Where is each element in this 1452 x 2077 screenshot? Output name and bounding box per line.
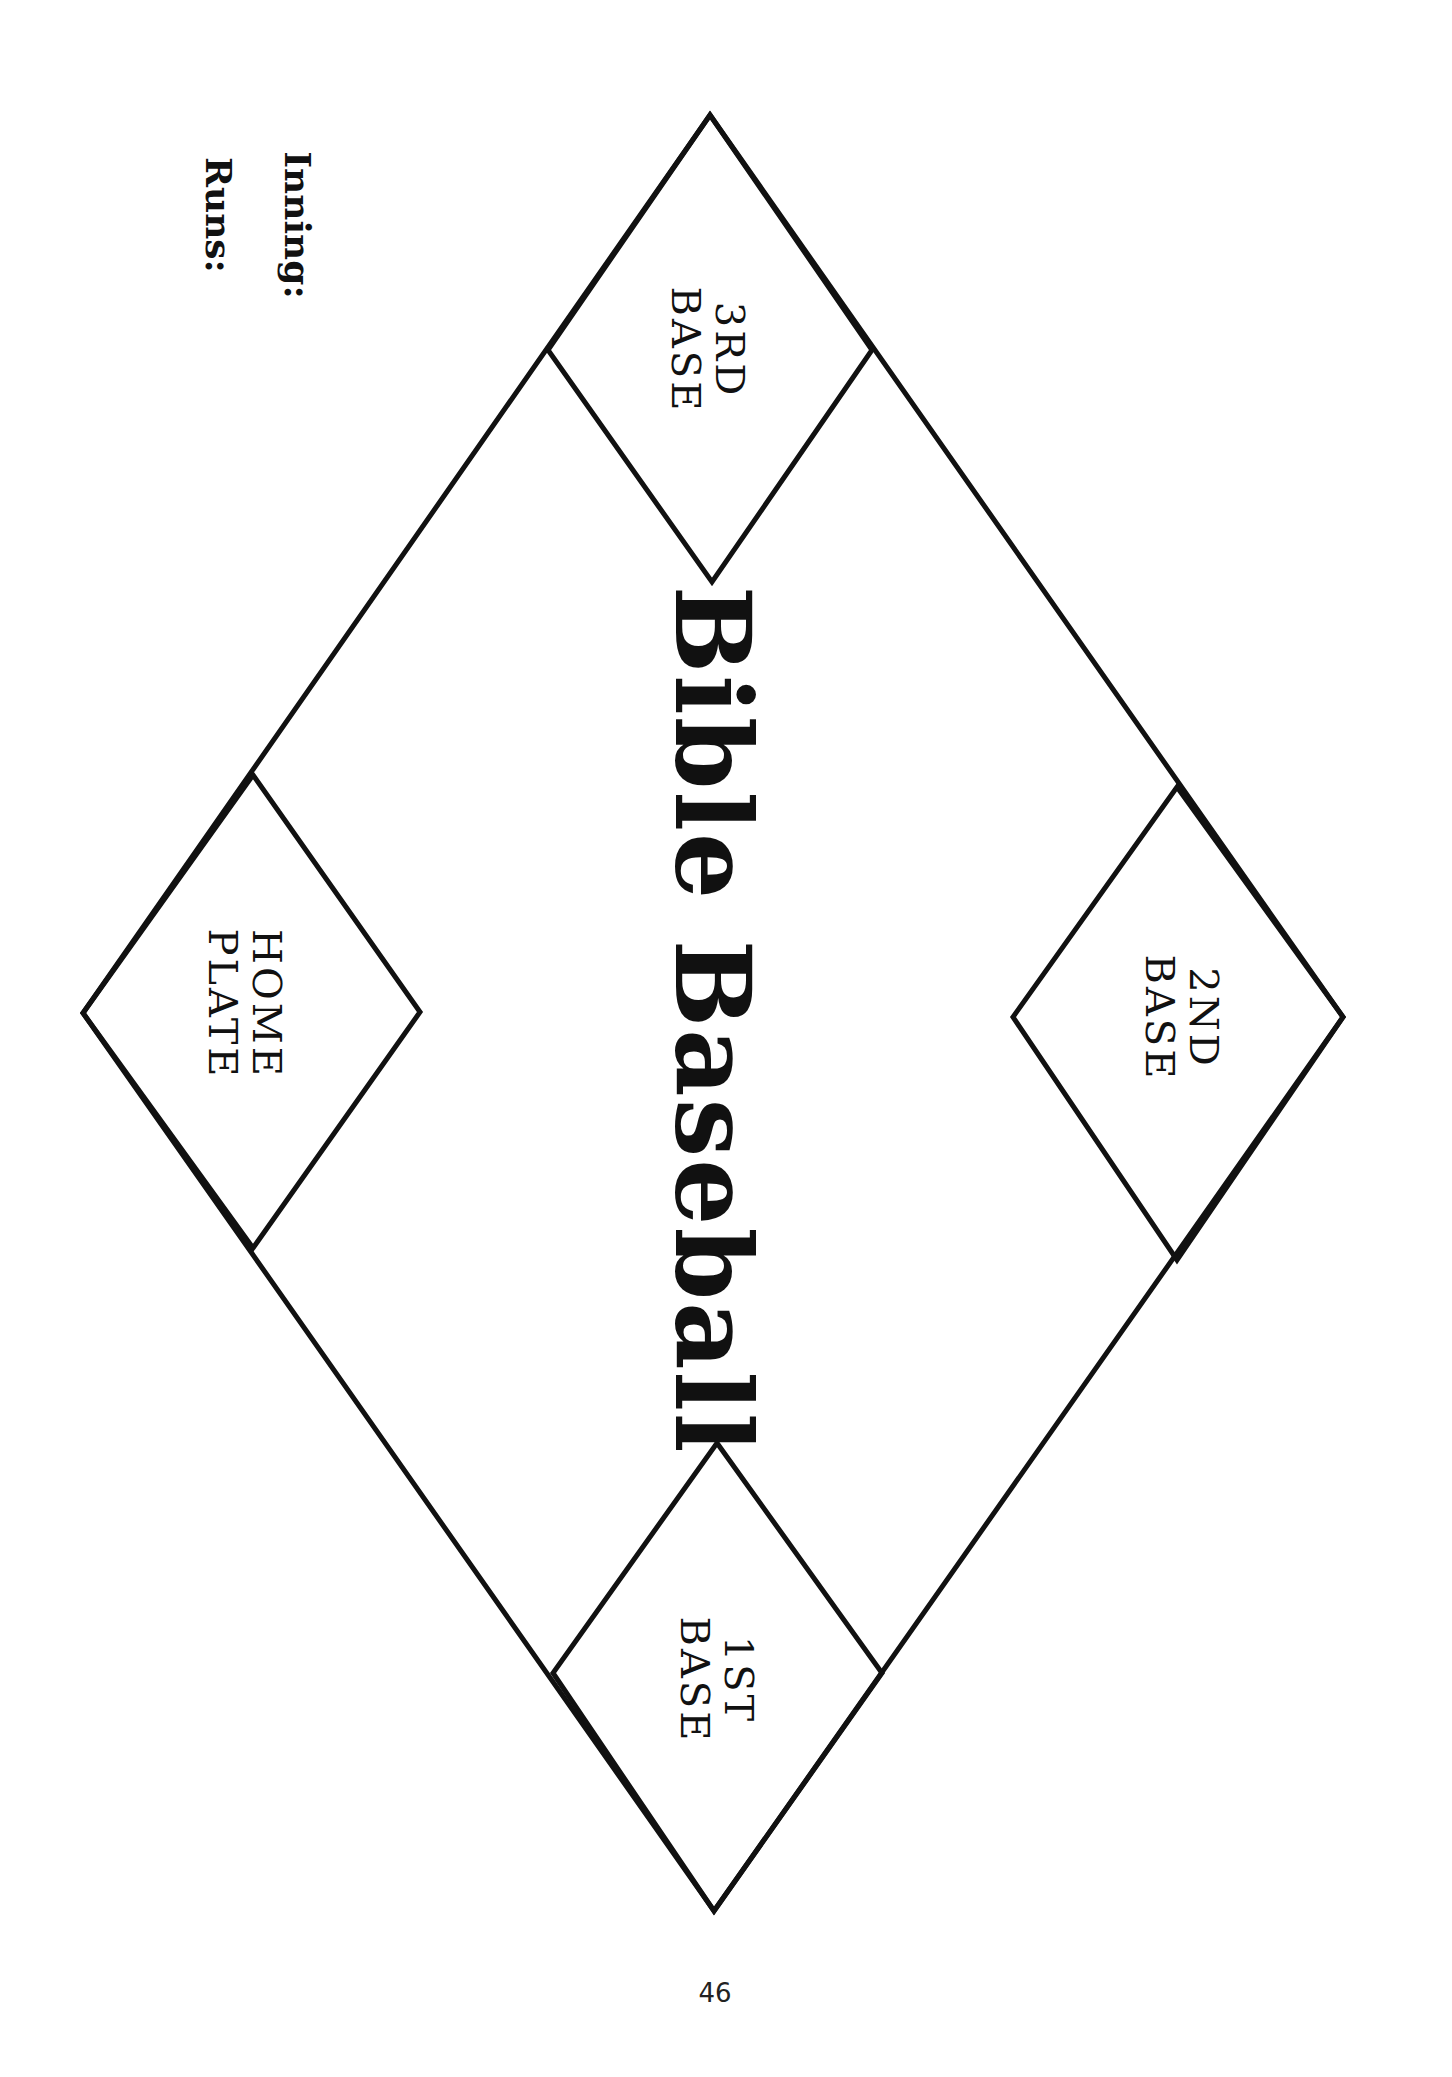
first-base-label-line2: BASE [673, 1617, 717, 1744]
second-base-label-line1: 2ND [1182, 955, 1226, 1082]
first-base-label: 1ST BASE [673, 1617, 761, 1744]
inning-label: Inning: [277, 151, 319, 299]
first-base-label-line1: 1ST [717, 1617, 761, 1744]
page-title: Bible Baseball [651, 585, 774, 1454]
third-base-label-line1: 3RD [708, 287, 752, 414]
runs-label: Runs: [198, 157, 240, 273]
second-base-label-line2: BASE [1138, 955, 1182, 1082]
second-base-label: 2ND BASE [1138, 955, 1226, 1082]
third-base-label-line2: BASE [664, 287, 708, 414]
inning-label-text: Inning: [277, 151, 319, 299]
home-plate-label-line1: HOME [245, 928, 289, 1079]
home-plate-label: HOME PLATE [201, 928, 289, 1079]
worksheet-page: Inning: Runs: 3RD BASE 2ND BASE 1ST BASE… [0, 0, 1452, 2077]
third-base-label: 3RD BASE [664, 287, 752, 414]
home-plate-label-line2: PLATE [201, 928, 245, 1079]
page-number: 46 [698, 1978, 731, 2008]
runs-label-text: Runs: [198, 157, 240, 273]
